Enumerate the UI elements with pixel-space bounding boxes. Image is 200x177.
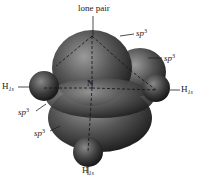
- label-sp3-lower-left: sp3: [34, 128, 45, 138]
- sp-text: sp: [18, 107, 26, 117]
- hydrogen-bottom: [73, 137, 103, 167]
- h-subscript: 1s: [9, 86, 14, 92]
- label-sp3-left: sp3: [18, 107, 29, 117]
- sp3-lobe-middle: [46, 78, 154, 118]
- orbital-drawing: [0, 0, 200, 177]
- sp-text: sp: [164, 53, 172, 63]
- ammonia-orbital-diagram: lone pair N sp3 sp3 sp3 sp3 H1s H1s H1s: [0, 0, 200, 177]
- sp-text: sp: [136, 28, 144, 38]
- label-nitrogen: N: [87, 79, 94, 88]
- h-subscript: 1s: [188, 89, 193, 95]
- label-sp3-right: sp3: [164, 53, 175, 63]
- h-subscript: 1s: [89, 170, 94, 176]
- sp-superscript: 3: [144, 28, 147, 34]
- sp-text: sp: [34, 128, 42, 138]
- sp-superscript: 3: [42, 128, 45, 134]
- label-sp3-top: sp3: [136, 28, 147, 38]
- label-h1s-right: H1s: [181, 85, 193, 95]
- label-lone-pair: lone pair: [78, 4, 110, 13]
- hydrogen-left: [29, 71, 59, 101]
- label-h1s-left: H1s: [2, 82, 14, 92]
- sp-superscript: 3: [172, 53, 175, 59]
- label-h1s-bottom: H1s: [82, 166, 94, 176]
- hydrogen-right: [142, 74, 170, 102]
- sp-superscript: 3: [26, 107, 29, 113]
